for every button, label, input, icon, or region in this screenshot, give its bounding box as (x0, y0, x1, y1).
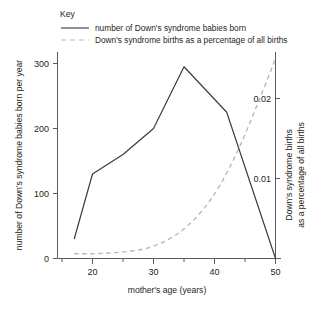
x-axis-title: mother's age (years) (128, 285, 207, 295)
y-axis-left-ticks (53, 64, 58, 259)
y-axis-right-ticks (276, 99, 281, 179)
y-axis-right-title-line1: Down's syndrome births (284, 129, 294, 220)
x-tick-label-20: 20 (87, 267, 97, 277)
x-tick-label-40: 40 (209, 267, 219, 277)
y-right-tick-label-001: 0.01 (253, 174, 271, 184)
y-left-tick-label-300: 300 (34, 59, 49, 69)
y-axis-left-title: number of Down's syndrome babies born pe… (14, 60, 24, 250)
y-left-tick-label-200: 200 (34, 124, 49, 134)
y-axis-right-title-line2: as a percentage of all births (296, 122, 306, 228)
downs-syndrome-chart: 0 100 200 300 0.01 0.02 20 30 40 50 moth… (0, 0, 327, 310)
y-right-tick-label-002: 0.02 (253, 94, 271, 104)
y-left-tick-label-0: 0 (44, 254, 49, 264)
x-tick-label-30: 30 (148, 267, 158, 277)
x-axis-ticks (62, 259, 276, 265)
x-tick-label-50: 50 (270, 267, 280, 277)
series-line-percentage (74, 59, 275, 254)
series-line-births-count (74, 67, 275, 259)
y-left-tick-label-100: 100 (34, 189, 49, 199)
